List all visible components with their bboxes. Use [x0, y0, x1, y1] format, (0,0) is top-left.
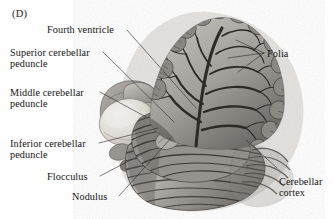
label-middle-cerebellar-peduncle-line1: Middle cerebellar: [10, 87, 84, 99]
label-superior-cerebellar-peduncle-line2: peduncle: [10, 58, 48, 70]
label-superior-cerebellar-peduncle-line1: Superior cerebellar: [10, 47, 90, 59]
label-middle-cerebellar-peduncle-line2: peduncle: [10, 98, 48, 110]
label-inferior-cerebellar-peduncle-line1: Inferior cerebellar: [10, 138, 86, 150]
label-flocculus: Flocculus: [47, 171, 88, 183]
label-cerebellar-cortex-line1: Cerebellar: [279, 176, 322, 188]
label-fourth-ventricle: Fourth ventricle: [47, 24, 114, 36]
panel-label: (D): [12, 8, 27, 19]
label-nodulus: Nodulus: [72, 191, 107, 203]
figure-panel-d: (D) Fourth ventricle Superior cerebellar…: [0, 0, 333, 219]
label-cerebellar-cortex-line2: cortex: [279, 187, 305, 199]
label-inferior-cerebellar-peduncle-line2: peduncle: [10, 149, 48, 161]
label-folia: Folia: [267, 48, 288, 60]
